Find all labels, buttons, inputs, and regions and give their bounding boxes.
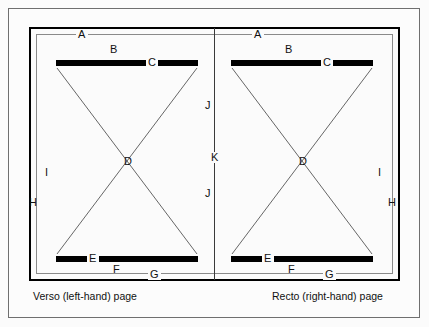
construction-diagonals [0,0,429,327]
recto-label-e: E [262,253,274,264]
verso-label-b: B [110,44,118,55]
recto-label-b: B [285,44,293,55]
gutter-label-j-bottom: J [205,188,211,199]
recto-label-g: G [323,269,336,280]
verso-label-f: F [113,264,120,275]
diagram-stage: A B C D E F G H I A B C D E F G H I J K … [0,0,429,327]
gutter-label-k: K [209,152,221,163]
verso-label-i: I [45,167,48,178]
recto-label-a: A [252,29,264,40]
verso-caption: Verso (left-hand) page [33,290,137,302]
gutter-label-j-top: J [205,100,211,111]
recto-caption: Recto (right-hand) page [272,290,383,302]
verso-label-a: A [76,29,88,40]
recto-label-f: F [288,264,295,275]
verso-label-e: E [87,253,99,264]
recto-label-d: D [299,156,307,167]
recto-label-c: C [321,57,333,68]
verso-label-h: H [29,197,37,208]
recto-label-i: I [378,167,381,178]
recto-label-h: H [388,197,396,208]
verso-label-c: C [146,57,158,68]
verso-label-g: G [148,269,161,280]
verso-label-d: D [124,156,132,167]
